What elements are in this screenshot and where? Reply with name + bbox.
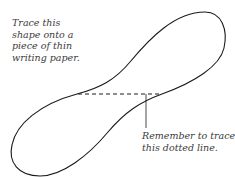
- instruction-note: Trace this shape onto a piece of thin wr…: [12, 17, 102, 63]
- dotted-line-note: Remember to trace this dotted line.: [142, 130, 235, 153]
